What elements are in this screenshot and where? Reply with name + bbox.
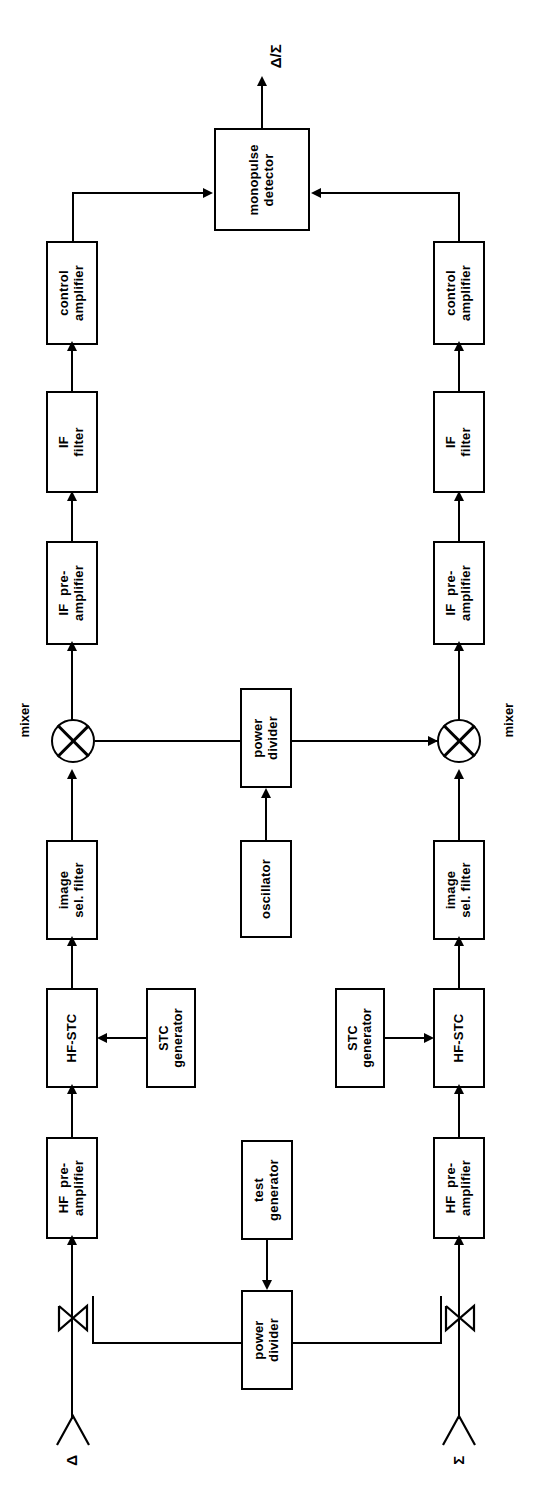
block-label: monopulse detector <box>247 144 276 215</box>
port-label-delta: Δ <box>64 1438 81 1482</box>
arrowhead-delta-into-hfpre <box>67 1235 77 1245</box>
wire-sigma-mixer-to-ifpre <box>458 645 460 720</box>
block-label: test generator <box>252 1159 281 1221</box>
block-label: IF pre- amplifier <box>57 565 86 621</box>
block-label: STC generator <box>157 1008 185 1067</box>
block-sigma-hf-stc[interactable]: HF-STC <box>433 988 485 1088</box>
arrowhead-sigma-into-ifpre <box>454 641 464 651</box>
block-sigma-hf-preamplifier[interactable]: HF pre- amplifier <box>433 1137 485 1239</box>
wire-delta-imgfilter-to-mixer <box>71 773 73 840</box>
arrowhead-sigma-into-imgfilter <box>454 936 464 946</box>
wire-sigma-ctrl-seg <box>458 345 460 392</box>
block-sigma-control-amplifier[interactable]: control amplifier <box>433 241 485 345</box>
block-sigma-if-filter[interactable]: IF filter <box>433 391 485 493</box>
wire-detector-output <box>261 84 263 130</box>
arrowhead-delta-into-hfstc <box>67 1084 77 1094</box>
wire-delta-coupler-tap-h <box>92 1342 242 1344</box>
block-sigma-stc-generator[interactable]: STC generator <box>335 988 385 1088</box>
label-delta-mixer: mixer <box>18 693 32 747</box>
wire-sigma-hfpre-to-hfstc <box>458 1088 460 1137</box>
block-delta-hf-preamplifier[interactable]: HF pre- amplifier <box>46 1137 98 1239</box>
arrowhead-sigma-into-hfpre <box>454 1235 464 1245</box>
arrowhead-delta-into-mixer <box>67 769 77 779</box>
wire-sigma-coupler-tap-v <box>440 1296 442 1344</box>
arrowhead-sigma-into-ctrl <box>454 341 464 351</box>
block-label: control amplifier <box>444 265 473 321</box>
block-delta-stc-generator[interactable]: STC generator <box>146 988 196 1088</box>
wire-delta-ctrl-up <box>72 192 74 242</box>
symbol-delta-directional-coupler <box>55 1298 91 1338</box>
block-label: IF filter <box>444 427 473 456</box>
block-label: IF filter <box>57 427 86 456</box>
block-label: power divider <box>251 716 280 760</box>
symbol-delta-mixer[interactable] <box>51 719 95 763</box>
wire-oscillator-to-lo-divider <box>265 797 267 840</box>
arrowhead-output-up <box>257 76 267 86</box>
arrowhead-sigma-into-detector <box>311 188 321 198</box>
block-monopulse-detector[interactable]: monopulse detector <box>214 128 310 231</box>
block-label: HF pre- amplifier <box>444 1160 473 1216</box>
block-label: oscillator <box>259 859 274 919</box>
arrowhead-delta-into-detector <box>203 188 213 198</box>
block-label: STC generator <box>346 1008 374 1067</box>
arrowhead-sigma-into-mixer <box>454 769 464 779</box>
wire-delta-hfpre-to-hfstc <box>71 1088 73 1137</box>
arrowhead-delta-into-imgfilter <box>67 936 77 946</box>
block-label: image sel. filter <box>57 862 86 918</box>
block-sigma-image-sel-filter[interactable]: image sel. filter <box>433 840 485 940</box>
block-diagram-canvas: Δ/Σ monopulse detector control amplifier… <box>0 0 540 1486</box>
symbol-sigma-directional-coupler <box>442 1298 478 1338</box>
wire-delta-stcgen-to-hfstc <box>106 1037 146 1039</box>
block-sigma-if-preamplifier[interactable]: IF pre- amplifier <box>433 541 485 645</box>
block-label: power divider <box>252 1318 281 1362</box>
arrowhead-osc-into-lo-divider <box>261 788 271 798</box>
arrowhead-sigma-stc-into-hfstc <box>424 1033 434 1043</box>
block-delta-hf-stc[interactable]: HF-STC <box>46 988 98 1088</box>
arrowhead-sigma-into-hfstc <box>454 1084 464 1094</box>
wire-sigma-to-detector <box>320 192 460 194</box>
block-label: control amplifier <box>57 265 86 321</box>
wire-delta-mixer-to-ifpre <box>71 645 73 720</box>
wire-lo-to-delta-mixer <box>95 740 241 742</box>
block-label: IF pre- amplifier <box>444 565 473 621</box>
block-test-power-divider[interactable]: power divider <box>241 1290 293 1390</box>
block-lo-power-divider[interactable]: power divider <box>240 688 292 788</box>
arrowhead-testgen-into-divider <box>262 1280 272 1290</box>
block-test-generator[interactable]: test generator <box>241 1140 293 1240</box>
wire-sigma-hfstc-to-imgfilter <box>458 940 460 988</box>
arrowhead-delta-into-if-filter <box>67 491 77 501</box>
wire-sigma-ctrl-up <box>458 192 460 242</box>
wire-sigma-imgfilter-to-mixer <box>458 773 460 840</box>
port-label-sigma: Σ <box>451 1438 468 1482</box>
block-label: HF-STC <box>452 1014 467 1063</box>
block-oscillator[interactable]: oscillator <box>240 840 292 938</box>
block-delta-if-preamplifier[interactable]: IF pre- amplifier <box>46 541 98 645</box>
wire-delta-iffilter-ctrl-seg <box>71 345 73 392</box>
block-label: HF-STC <box>65 1014 80 1063</box>
label-sigma-mixer: mixer <box>502 693 516 747</box>
wire-delta-to-detector <box>72 192 204 194</box>
symbol-sigma-mixer[interactable] <box>437 719 481 763</box>
wire-delta-coupler-tap-v <box>92 1296 94 1344</box>
wire-delta-hfstc-to-imgfilter <box>71 940 73 988</box>
wire-sigma-coupler-tap-h <box>292 1342 442 1344</box>
arrowhead-lo-into-sigma-mixer <box>428 736 438 746</box>
arrowhead-sigma-into-if-filter <box>454 491 464 501</box>
output-label-delta-sigma: Δ/Σ <box>268 26 285 86</box>
arrowhead-delta-stc-into-hfstc <box>97 1033 107 1043</box>
block-delta-image-sel-filter[interactable]: image sel. filter <box>46 840 98 940</box>
wire-lo-to-sigma-mixer <box>292 740 438 742</box>
block-delta-control-amplifier[interactable]: control amplifier <box>46 241 98 345</box>
block-label: HF pre- amplifier <box>57 1160 86 1216</box>
block-delta-if-filter[interactable]: IF filter <box>46 391 98 493</box>
arrowhead-delta-into-ifpre <box>67 641 77 651</box>
wire-sigma-stcgen-to-hfstc <box>385 1037 425 1039</box>
block-label: image sel. filter <box>444 862 473 918</box>
